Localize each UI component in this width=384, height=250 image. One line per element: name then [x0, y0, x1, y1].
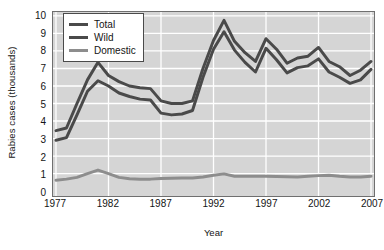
y-tick-label: 9: [40, 27, 46, 38]
x-tick-label: 1997: [255, 198, 277, 209]
y-tick-label: 10: [35, 10, 46, 21]
chart-legend: Total Wild Domestic: [63, 13, 144, 62]
x-tick-label: 1977: [44, 198, 66, 209]
x-tick-label: 1982: [97, 198, 119, 209]
x-axis-title: Year: [52, 227, 375, 238]
y-tick-label: 0: [40, 187, 46, 198]
y-tick-label: 1: [40, 169, 46, 180]
y-axis-title: Rabies cases (thousands): [0, 0, 22, 205]
legend-item-wild: Wild: [69, 31, 136, 44]
y-tick-label: 4: [40, 116, 46, 127]
legend-swatch-total: [69, 23, 88, 26]
y-axis-tick-labels: 012345678910: [22, 0, 49, 205]
y-tick-label: 6: [40, 80, 46, 91]
x-tick-label: 2002: [308, 198, 330, 209]
y-tick-label: 2: [40, 151, 46, 162]
y-tick-label: 3: [40, 133, 46, 144]
legend-label-total: Total: [94, 19, 115, 31]
y-axis-title-text: Rabies cases (thousands): [6, 46, 17, 158]
legend-item-total: Total: [69, 18, 136, 31]
y-tick-label: 7: [40, 63, 46, 74]
legend-swatch-wild: [69, 36, 88, 39]
x-tick-label: 1992: [202, 198, 224, 209]
rabies-cases-line-chart: Rabies cases (thousands) 012345678910 19…: [0, 0, 384, 250]
legend-swatch-domestic: [69, 49, 88, 52]
legend-label-wild: Wild: [94, 32, 113, 44]
y-tick-label: 8: [40, 45, 46, 56]
x-tick-label: 2007: [361, 198, 383, 209]
x-axis-tick-labels: 1977198219871992199720022007: [52, 198, 375, 214]
legend-item-domestic: Domestic: [69, 44, 136, 57]
legend-label-domestic: Domestic: [94, 45, 136, 57]
x-tick-label: 1987: [150, 198, 172, 209]
y-tick-label: 5: [40, 98, 46, 109]
